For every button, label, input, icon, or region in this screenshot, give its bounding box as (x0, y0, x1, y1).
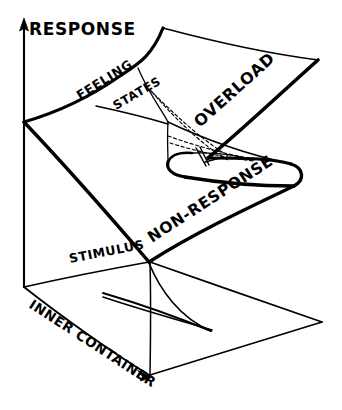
fold-left-return (168, 153, 192, 162)
label-states: STATES (111, 74, 164, 113)
surface-left-edge (24, 28, 163, 122)
feeling-states-leader-line (96, 106, 168, 124)
fold-nose-right (291, 164, 302, 186)
base-plane-vertical-edge (150, 262, 151, 375)
label-inner-container: INNER CONTAINER (26, 296, 159, 390)
label-overload: OVERLOAD (190, 49, 279, 131)
cusp-catastrophe-figure: RESPONSE FEELING STATES OVERLOAD NON-RES… (0, 0, 342, 410)
surface-back-top-edge (163, 28, 318, 60)
axis-group (20, 18, 153, 381)
cusp-diagram-svg: RESPONSE FEELING STATES OVERLOAD NON-RES… (0, 0, 342, 410)
stimulus-axis-line (24, 262, 149, 287)
bifurcation-cusp-branch-b (103, 297, 212, 330)
fold-left-tip (168, 162, 185, 177)
control-plane-group (103, 262, 322, 375)
base-plane-far-edge (150, 262, 322, 322)
feeling-states-leader-group (96, 106, 168, 124)
label-stimulus: STIMULUS (68, 237, 146, 266)
base-plane-near-edge (150, 322, 322, 375)
label-response: RESPONSE (29, 19, 136, 39)
label-non-response: NON-RESPONSE (144, 152, 276, 246)
